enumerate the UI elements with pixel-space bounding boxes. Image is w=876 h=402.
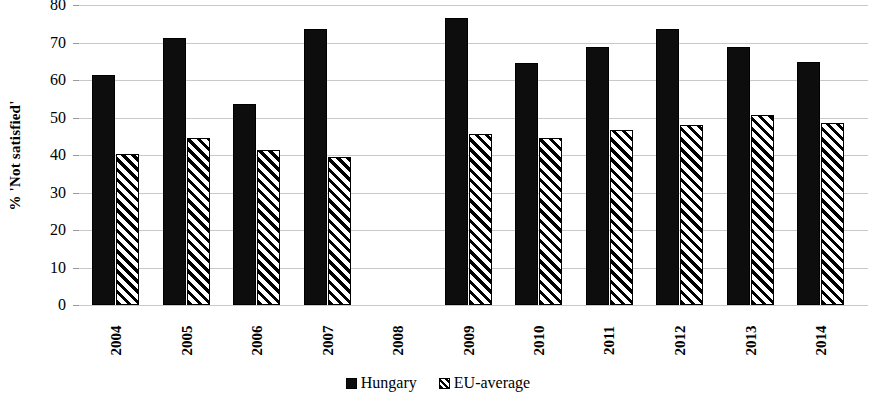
legend-swatch-eu-average-icon	[439, 378, 450, 389]
bar-eu-average	[610, 130, 633, 305]
y-axis-ticks: 80706050403020100	[30, 0, 72, 310]
bar-hungary	[163, 38, 186, 305]
legend-swatch-hungary-icon	[346, 378, 357, 389]
y-axis-tick-label: 40	[50, 147, 66, 163]
x-axis-tick-label-text: 2012	[672, 326, 689, 356]
bar-hungary	[727, 47, 750, 305]
legend-item[interactable]: EU-average	[439, 375, 530, 391]
bar-eu-average	[187, 138, 210, 305]
bar-chart: % 'Not satisfied' 80706050403020100 2004…	[0, 0, 876, 402]
x-axis-tick-label-text: 2008	[390, 326, 407, 356]
y-axis-title-text: % 'Not satisfied'	[7, 100, 24, 210]
y-axis-tick-label: 30	[50, 185, 66, 201]
bar-hungary	[797, 62, 820, 305]
x-axis-tick-label-text: 2006	[249, 326, 266, 356]
y-axis-tick-label: 20	[50, 222, 66, 238]
x-axis-tick-label: 2006	[233, 316, 281, 368]
x-axis-tick-label: 2012	[656, 316, 704, 368]
bar-eu-average	[116, 154, 139, 306]
x-axis-tick-label: 2013	[727, 316, 775, 368]
bar-hungary	[92, 75, 115, 305]
bar-hungary	[304, 29, 327, 305]
y-axis-tick-label: 80	[50, 0, 66, 13]
y-axis-tick-label: 70	[50, 35, 66, 51]
bar-hungary	[515, 63, 538, 305]
y-axis-tick-label: 60	[50, 72, 66, 88]
bar-eu-average	[469, 134, 492, 305]
x-axis-tick-label-text: 2004	[108, 326, 125, 356]
chart-legend: HungaryEU-average	[0, 375, 876, 391]
bar-eu-average	[539, 138, 562, 305]
x-axis-tick-label-text: 2009	[460, 326, 477, 356]
plot-area	[78, 0, 868, 310]
y-axis-title: % 'Not satisfied'	[0, 0, 30, 310]
x-axis-tick-label: 2007	[304, 316, 352, 368]
y-axis-tick-label: 50	[50, 110, 66, 126]
x-axis-tick-label-text: 2007	[319, 326, 336, 356]
y-axis-tick-label: 0	[58, 297, 66, 313]
bar-eu-average	[751, 115, 774, 305]
x-axis-tick-label: 2010	[515, 316, 563, 368]
bar-eu-average	[257, 150, 280, 305]
bar-groups	[78, 0, 868, 310]
bar-hungary	[445, 18, 468, 305]
x-axis-tick-label: 2014	[797, 316, 845, 368]
legend-label: Hungary	[361, 375, 417, 391]
legend-label: EU-average	[454, 375, 530, 391]
x-axis-tick-label: 2004	[92, 316, 140, 368]
x-axis-tick-label-text: 2014	[813, 326, 830, 356]
x-axis-labels: 2004200520062007200820092010201120122013…	[78, 310, 868, 370]
bar-eu-average	[680, 125, 703, 305]
bar-hungary	[586, 47, 609, 305]
bar-eu-average	[328, 157, 351, 306]
legend-item[interactable]: Hungary	[346, 375, 417, 391]
x-axis-tick-label: 2011	[586, 316, 634, 368]
x-axis-tick-label: 2009	[445, 316, 493, 368]
x-axis-tick-label-text: 2013	[742, 326, 759, 356]
x-axis-tick-label-text: 2005	[178, 326, 195, 356]
x-axis-tick-label-text: 2011	[601, 326, 618, 355]
y-axis-tick-label: 10	[50, 260, 66, 276]
bar-hungary	[233, 104, 256, 305]
bar-eu-average	[821, 123, 844, 305]
x-axis-tick-label-text: 2010	[531, 326, 548, 356]
bar-hungary	[656, 29, 679, 305]
x-axis-tick-label: 2008	[374, 316, 422, 368]
x-axis-tick-label: 2005	[163, 316, 211, 368]
